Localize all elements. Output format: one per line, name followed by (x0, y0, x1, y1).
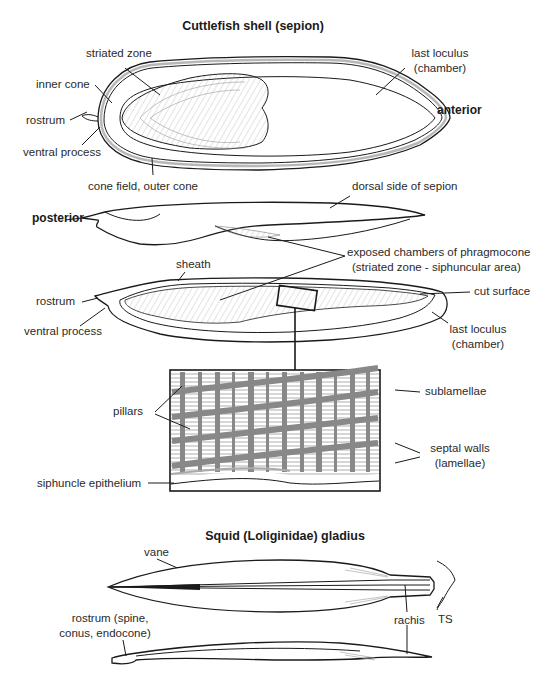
leader-ventral-process-2 (80, 308, 105, 326)
label-rostrum-squid-sub: conus, endocone) (59, 627, 151, 639)
leader-ts (437, 597, 443, 608)
leader-rostrum-2 (82, 298, 98, 302)
leader-septal-2 (395, 457, 420, 463)
diagram-canvas: Cuttlefish shell (sepion) striated zone … (0, 0, 551, 680)
label-cone-field: cone field, outer cone (88, 180, 198, 192)
label-posterior: posterior (32, 211, 84, 225)
label-pillars: pillars (113, 405, 143, 417)
label-siphuncle-epithelium: siphuncle epithelium (37, 477, 141, 489)
label-exposed-chambers-sub: (striated zone - siphuncular area) (352, 261, 521, 273)
label-cut-surface: cut surface (474, 285, 530, 297)
squid-gladius: Squid (Loliginidae) gladius vane TS rach… (59, 529, 455, 664)
label-striated-zone: striated zone (86, 47, 152, 59)
sepion-section-view: sheath rostrum ventral process cut surfa… (24, 258, 530, 370)
label-rostrum-squid: rostrum (spine, (72, 612, 149, 624)
label-inner-cone: inner cone (36, 78, 90, 90)
label-sheath: sheath (176, 258, 211, 270)
label-sublamellae: sublamellae (425, 385, 486, 397)
label-ventral-process-2: ventral process (24, 325, 102, 337)
label-rachis: rachis (394, 614, 425, 626)
label-anterior: anterior (437, 103, 482, 117)
sepion-dorsal-view: Cuttlefish shell (sepion) striated zone … (23, 19, 482, 175)
label-septal-walls: septal walls (430, 442, 490, 454)
leader-septal-1 (395, 443, 420, 453)
squid-title: Squid (Loliginidae) gladius (205, 529, 365, 543)
sepion-lateral-view: cone field, outer cone dorsal side of se… (32, 180, 530, 300)
label-last-loculus-b: last loculus (450, 323, 507, 335)
label-rostrum-2: rostrum (36, 295, 75, 307)
label-vane: vane (144, 546, 169, 558)
leader-rostrum (70, 112, 87, 120)
label-last-loculus: last loculus (412, 47, 469, 59)
label-dorsal-side: dorsal side of sepion (352, 180, 457, 192)
leader-last-loculus-2 (432, 312, 448, 323)
label-lamellae: (lamellae) (435, 457, 486, 469)
leader-dorsal-side (330, 196, 350, 208)
leader-ventral-process (82, 127, 100, 145)
label-ventral-process: ventral process (23, 146, 101, 158)
label-ts: TS (438, 613, 453, 625)
leader-rostrum-squid (123, 640, 126, 656)
label-rostrum: rostrum (26, 114, 65, 126)
label-exposed-chambers: exposed chambers of phragmocone (347, 246, 530, 258)
microstructure-detail: pillars sublamellae septal walls (lamell… (37, 368, 490, 491)
label-last-loculus-chamber: (chamber) (414, 62, 467, 74)
cuttlefish-title: Cuttlefish shell (sepion) (182, 19, 324, 33)
label-last-loculus-b-chamber: (chamber) (452, 338, 505, 350)
leader-sublamellae (395, 390, 420, 392)
